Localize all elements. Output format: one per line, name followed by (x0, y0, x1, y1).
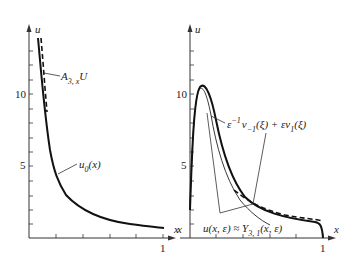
right-eps-label: ε−1v−1(ξ) + εv1(ξ) (227, 116, 307, 134)
left-tick-5: 5 (20, 159, 26, 171)
right-x-ticks (216, 234, 323, 238)
right-inner-thin-curve (190, 88, 270, 225)
right-eps-leader (211, 116, 225, 123)
left-tick-10: 10 (15, 88, 27, 100)
left-u0-leader (58, 164, 77, 174)
left-tick-1: 1 (160, 242, 166, 254)
right-u-label: u (195, 23, 201, 35)
left-y-arrow-icon (27, 24, 32, 32)
left-x-arrow-icon (168, 236, 176, 241)
right-tick-1: 1 (320, 242, 326, 254)
left-x-ticks (56, 234, 163, 238)
left-panel: u 10 5 1 x A3, xU u0(x) (15, 23, 179, 254)
right-x-arrow-icon (328, 236, 336, 241)
left-u-label: u (35, 23, 41, 35)
right-tick-10: 10 (176, 88, 188, 100)
left-A-leader (44, 73, 60, 76)
right-x-label: x (333, 223, 339, 235)
right-y-arrow-icon (188, 24, 193, 32)
right-u-leader-2 (253, 133, 266, 204)
left-A-label: A3, xU (60, 70, 88, 86)
left-y-ticks (29, 51, 33, 224)
right-panel: u 10 5 1 x x ε−1v−1(ξ) + εv1(ξ) u(x, ε) … (176, 23, 339, 254)
left-x-label-2: x (176, 223, 182, 235)
right-tick-5: 5 (181, 159, 187, 171)
figure: u 10 5 1 x A3, xU u0(x) (0, 0, 355, 262)
left-u0-label: u0(x) (79, 158, 101, 174)
left-u0-curve (38, 38, 164, 228)
